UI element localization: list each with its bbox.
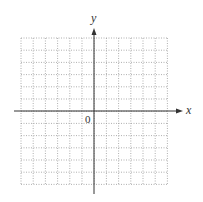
y-axis-label: y [91, 12, 96, 24]
axes [14, 28, 183, 194]
y-axis-arrowhead-icon [92, 28, 97, 35]
x-axis-arrowhead-icon [176, 109, 183, 114]
x-axis-label: x [186, 104, 191, 116]
origin-label: 0 [85, 114, 91, 125]
coordinate-plane [0, 0, 203, 202]
